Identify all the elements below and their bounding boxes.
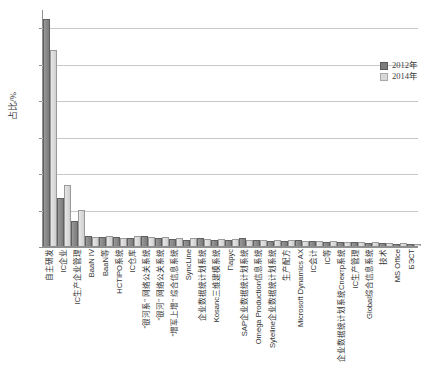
- bar: [323, 242, 330, 246]
- bar: [288, 240, 295, 246]
- x-axis-label: IC等: [324, 249, 332, 265]
- bar-group: [141, 10, 155, 246]
- bar: [344, 242, 351, 246]
- x-axis-label: 生产配方: [283, 249, 291, 281]
- x-axis-label-cell: SAP企业数据统计划系统: [238, 249, 252, 375]
- bar-group: [239, 10, 253, 246]
- bar-group: [99, 10, 113, 246]
- bar: [260, 240, 267, 246]
- bar: [386, 243, 393, 246]
- bar: [211, 240, 218, 246]
- x-axis-label-cell: SyncLine: [182, 249, 196, 375]
- bar: [85, 236, 92, 246]
- x-axis-label: Omega Production信息系统: [255, 249, 263, 344]
- bar: [134, 236, 141, 246]
- y-tick-mark: [39, 211, 42, 212]
- x-axis-label: 技术: [380, 249, 388, 265]
- bar: [393, 244, 400, 246]
- x-axis-label-cell: IC生产企业管理: [71, 249, 85, 375]
- x-axis-label-cell: 技术: [377, 249, 391, 375]
- x-axis-label-cell: 企业数据统计划系统Cпектр系统: [335, 249, 349, 375]
- x-axis-label-cell: 企业数据统计划系统: [196, 249, 210, 375]
- x-axis-label-cell: Kosanc三维建模系统: [210, 249, 224, 375]
- y-tick-mark: [39, 101, 42, 102]
- bar: [407, 244, 414, 246]
- bar: [141, 236, 148, 246]
- x-axis-label: "银河" 网络公关系统: [157, 249, 165, 321]
- x-axis-label: 企业数据统计划系统Cпектр系统: [338, 249, 346, 362]
- bar: [169, 239, 176, 246]
- bar-group: [267, 10, 281, 246]
- bar-group: [197, 10, 211, 246]
- bar: [330, 241, 337, 246]
- bar: [372, 242, 379, 246]
- x-axis-label-cell: БЭСТ: [405, 249, 419, 375]
- bar-group: [379, 10, 393, 246]
- bar: [106, 236, 113, 246]
- bar-group: [337, 10, 351, 246]
- plot-area: 0102030405060: [42, 10, 418, 247]
- bar: [92, 237, 99, 246]
- bar: [50, 50, 57, 246]
- bar-group: [253, 10, 267, 246]
- y-tick-mark: [39, 138, 42, 139]
- legend-item-2014: 2014年: [380, 71, 418, 82]
- x-axis-label: Global综合信息系统: [366, 249, 374, 319]
- bar: [295, 240, 302, 246]
- bar-group: [393, 10, 407, 246]
- x-axis-label: 企业数据统计划系统: [199, 249, 207, 321]
- x-axis-label: IC企业: [60, 249, 68, 273]
- bar: [351, 242, 358, 246]
- x-axis-label: SyncLine: [185, 249, 193, 280]
- x-axis-label: 自主研发: [46, 249, 54, 281]
- bar-group: [323, 10, 337, 246]
- bar-group: [183, 10, 197, 246]
- y-tick-mark: [39, 28, 42, 29]
- bar: [267, 241, 274, 246]
- bar: [127, 238, 134, 246]
- x-axis-label: BaaN IV: [88, 249, 96, 277]
- x-axis-label-cell: Microsoft Dynamics AX: [294, 249, 308, 375]
- bar: [78, 210, 85, 246]
- x-axis-label-cell: IC会计: [308, 249, 322, 375]
- x-axis-label-cell: Omega Production信息系统: [252, 249, 266, 375]
- bar-group: [211, 10, 225, 246]
- bar: [379, 243, 386, 246]
- bar: [358, 242, 365, 246]
- x-axis-label-cell: "银河系" 网络公关系统: [140, 249, 154, 375]
- x-axis-label-cell: "银河" 网络公关系统: [154, 249, 168, 375]
- bar: [148, 237, 155, 246]
- bar: [218, 239, 225, 246]
- x-axis-label: IC生产企业管理: [74, 249, 82, 305]
- bars-layer: [43, 10, 418, 246]
- x-axis-label-cell: IC仓库: [127, 249, 141, 375]
- bar-group: [169, 10, 183, 246]
- legend-label: 2014年: [392, 71, 418, 82]
- bar: [274, 240, 281, 246]
- bar-group: [155, 10, 169, 246]
- y-tick-mark: [39, 247, 42, 248]
- bar-group: [281, 10, 295, 246]
- bar-group: [113, 10, 127, 246]
- x-axis-label: "增军上增" 综合信息系统: [171, 249, 179, 337]
- bar: [71, 221, 78, 246]
- bar: [232, 239, 239, 246]
- bar: [204, 239, 211, 246]
- bar: [414, 244, 421, 246]
- bar: [64, 185, 71, 246]
- bar-group: [309, 10, 323, 246]
- bar: [155, 238, 162, 246]
- bar-chart: 占比/% 0102030405060 2012年 2014年 自主研发IC企业I…: [0, 0, 432, 379]
- x-axis-label: BaaN等: [102, 249, 110, 276]
- x-axis-label: HCTIPO系统: [116, 249, 124, 294]
- bar: [120, 238, 127, 246]
- x-axis-label-cell: MS Office: [391, 249, 405, 375]
- legend-swatch-icon: [380, 73, 388, 81]
- x-axis-label-cell: Global综合信息系统: [363, 249, 377, 375]
- x-axis-label: SAP企业数据统计划系统: [241, 249, 249, 336]
- x-axis-label-cell: Syteline企业数据统计划系统: [266, 249, 280, 375]
- bar-group: [71, 10, 85, 246]
- bar-group: [295, 10, 309, 246]
- bar: [316, 241, 323, 246]
- y-tick-mark: [39, 65, 42, 66]
